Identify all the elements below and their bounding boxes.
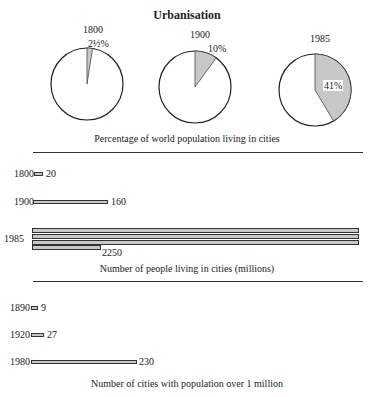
people-value-1985: 2250 [102, 247, 122, 258]
people-year-1985: 1985 [4, 233, 24, 244]
pie-label-1985: 41% [323, 80, 343, 91]
people-year-1800: 1800 [14, 168, 34, 179]
people-bar-1900 [33, 200, 108, 204]
cities-bar-1920 [31, 333, 44, 337]
pie-label-1900: 10% [208, 43, 226, 54]
pie-charts [0, 0, 374, 130]
cities-value-1980: 230 [139, 356, 154, 367]
people-year-1900: 1900 [14, 196, 34, 207]
cities-value-1890: 9 [41, 302, 46, 313]
people-bar-1800 [34, 172, 43, 176]
caption-people: Number of people living in cities (milli… [0, 263, 374, 274]
cities-year-1980: 1980 [10, 356, 30, 367]
cities-value-1920: 27 [47, 329, 57, 340]
people-value-1900: 160 [111, 196, 126, 207]
people-bar-1985-row2 [32, 234, 359, 239]
pie-label-1800: 2½% [88, 38, 109, 49]
cities-year-1890: 1890 [10, 302, 30, 313]
people-value-1800: 20 [46, 168, 56, 179]
cities-bar-1890 [31, 306, 38, 310]
people-bar-1985-row1 [32, 228, 359, 233]
divider [33, 152, 363, 153]
divider [33, 281, 363, 282]
cities-bar-1980 [31, 360, 137, 364]
people-bar-1985-row4 [32, 245, 101, 250]
caption-pies: Percentage of world population living in… [0, 133, 374, 144]
cities-year-1920: 1920 [10, 329, 30, 340]
caption-cities: Number of cities with population over 1 … [0, 378, 374, 389]
